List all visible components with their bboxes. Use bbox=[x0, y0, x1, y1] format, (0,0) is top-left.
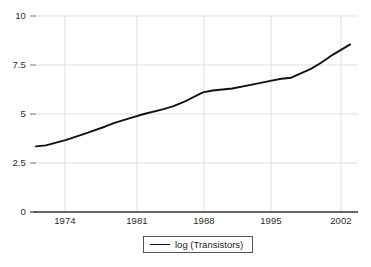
x-tick-label-2002: 2002 bbox=[315, 215, 367, 226]
y-tick-label-0: 0 bbox=[0, 206, 26, 217]
horizontal-gridlines bbox=[34, 16, 358, 163]
transistor-growth-chart: 10 7.5 5 2.5 0 1974 1981 1988 1995 2002 … bbox=[0, 0, 371, 267]
chart-plot-area bbox=[0, 0, 371, 267]
y-tick-label-2_5: 2.5 bbox=[0, 157, 26, 168]
x-tick-label-1981: 1981 bbox=[111, 215, 163, 226]
y-tick-label-5: 5 bbox=[0, 108, 26, 119]
y-tick-label-10: 10 bbox=[0, 10, 26, 21]
chart-legend: log (Transistors) bbox=[143, 236, 253, 253]
y-tick-label-7_5: 7.5 bbox=[0, 59, 26, 70]
x-tick-label-1995: 1995 bbox=[245, 215, 297, 226]
y-axis-ticks bbox=[30, 16, 36, 212]
x-tick-label-1974: 1974 bbox=[39, 215, 91, 226]
x-tick-label-1988: 1988 bbox=[178, 215, 230, 226]
legend-line-swatch-icon bbox=[150, 244, 170, 245]
legend-label-log-transistors: log (Transistors) bbox=[175, 240, 243, 250]
data-series-log-transistors bbox=[36, 44, 350, 146]
